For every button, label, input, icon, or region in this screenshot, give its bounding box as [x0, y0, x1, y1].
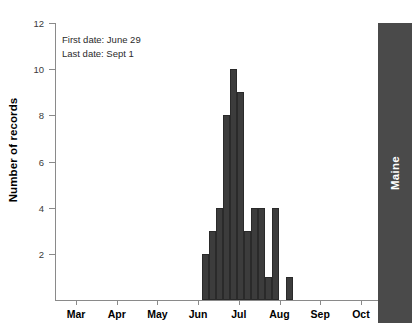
x-axis-line [55, 300, 410, 301]
annotation-first-date: First date: June 29 [62, 33, 141, 47]
bar [272, 208, 279, 300]
y-tick-mark [49, 115, 55, 116]
x-tick-label: Oct [341, 308, 381, 320]
y-tick-mark [49, 23, 55, 24]
x-tick-mark [320, 300, 321, 305]
bar [216, 208, 223, 300]
x-tick-label: Mar [56, 308, 96, 320]
y-tick-label: 8 [14, 110, 44, 121]
bar [265, 277, 272, 300]
annotation-last-date: Last date: Sept 1 [62, 47, 141, 61]
y-tick-label: 10 [14, 64, 44, 75]
bar [209, 231, 216, 300]
x-tick-label: Sep [300, 308, 340, 320]
x-tick-mark [239, 300, 240, 305]
y-tick-mark [49, 162, 55, 163]
x-tick-mark [157, 300, 158, 305]
bar [258, 208, 265, 300]
y-tick-label: 6 [14, 156, 44, 167]
bar [202, 254, 209, 300]
y-axis-line [55, 23, 56, 300]
x-tick-mark [76, 300, 77, 305]
y-tick-label: 2 [14, 248, 44, 259]
y-tick-label: 12 [14, 18, 44, 29]
x-tick-label: Aug [260, 308, 300, 320]
x-tick-mark [117, 300, 118, 305]
x-tick-label: Apr [97, 308, 137, 320]
chart-figure: Number of records 24681012 MarAprMayJunJ… [0, 0, 416, 333]
side-panel-maine: Maine [378, 23, 412, 323]
x-tick-mark [198, 300, 199, 305]
y-tick-mark [49, 208, 55, 209]
bar [237, 92, 244, 300]
bar [244, 231, 251, 300]
x-tick-label: Jul [219, 308, 259, 320]
bar [223, 115, 230, 300]
y-tick-mark [49, 69, 55, 70]
x-tick-label: May [137, 308, 177, 320]
annotation-block: First date: June 29 Last date: Sept 1 [62, 33, 141, 61]
x-tick-label: Jun [178, 308, 218, 320]
y-tick-label: 4 [14, 202, 44, 213]
y-tick-mark [49, 254, 55, 255]
side-panel-label: Maine [389, 156, 401, 190]
bar [251, 208, 258, 300]
bar [230, 69, 237, 300]
bar [286, 277, 293, 300]
x-tick-mark [280, 300, 281, 305]
x-tick-mark [361, 300, 362, 305]
